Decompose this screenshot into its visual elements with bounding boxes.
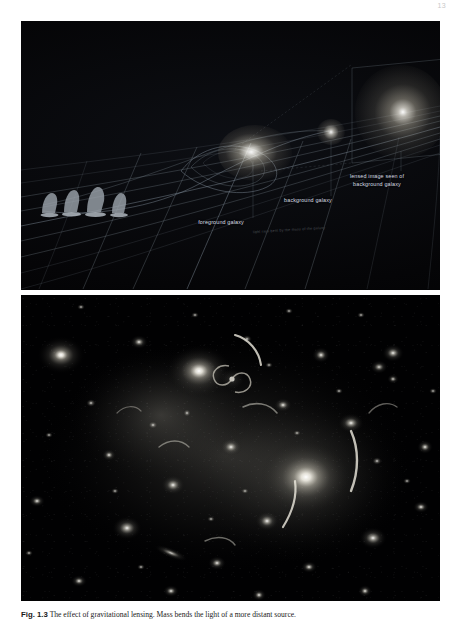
figure-caption-text: The effect of gravitational lensing. Mas… [50, 610, 296, 619]
figure-caption: Fig. 1.3 The effect of gravitational len… [21, 609, 442, 620]
label-background-galaxy: background galaxy [272, 197, 344, 205]
label-lensed-image: lensed image seen of background galaxy [338, 173, 416, 189]
page-number: 13 [437, 2, 446, 9]
galaxy-cluster-photo [21, 295, 440, 601]
figure-panel-diagram: lensed image seen of background galaxy b… [21, 21, 440, 290]
figure-panel-photograph [21, 295, 440, 601]
lensed-image-inset-panel [351, 59, 440, 163]
observatory-telescopes [37, 181, 133, 227]
lensed-galaxy-glow [355, 65, 440, 159]
cluster-galaxies [21, 295, 440, 601]
label-foreground-galaxy: foreground galaxy [185, 219, 257, 227]
figure-label: Fig. 1.3 [21, 610, 48, 619]
figure-1-3: lensed image seen of background galaxy b… [21, 21, 440, 601]
spacetime-diagram: lensed image seen of background galaxy b… [21, 21, 440, 290]
document-page: 13 [0, 0, 463, 626]
